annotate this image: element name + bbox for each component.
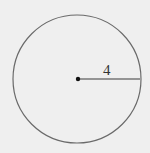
diagram-canvas: 4 [0,0,150,153]
circle-diagram [0,0,150,153]
center-point [76,77,80,81]
radius-label: 4 [103,63,111,78]
